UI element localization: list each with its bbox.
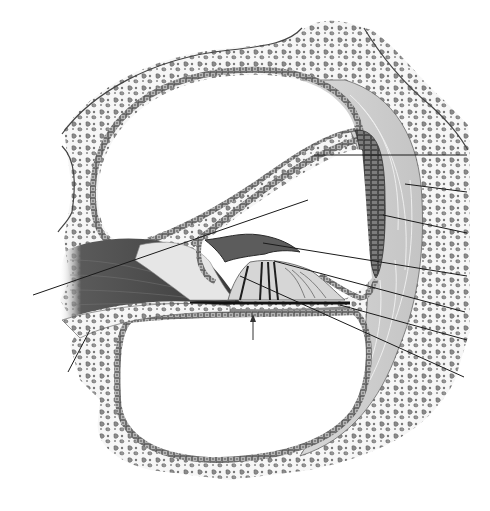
cochlear-duct-diagram — [0, 0, 490, 511]
